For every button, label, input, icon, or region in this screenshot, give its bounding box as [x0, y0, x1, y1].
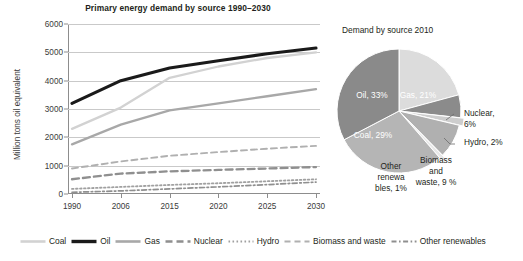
plot-area: 0100020003000400050006000 19902006201520… — [68, 24, 320, 194]
legend-item-coal[interactable]: Coal — [20, 236, 66, 246]
line-swatch-dotted — [228, 237, 254, 246]
pie-label-hydro: Hydro, 2% — [464, 137, 503, 147]
pie-chart-title: Demand by source 2010 — [342, 25, 433, 35]
y-axis-label: Million tons oil equivalent — [13, 35, 22, 195]
y-tick-label: 0 — [58, 190, 63, 199]
x-tick-mark — [170, 194, 171, 198]
y-tick-label: 4000 — [45, 76, 63, 85]
x-tick-mark — [267, 194, 268, 198]
series-lines — [68, 24, 320, 194]
x-tick-mark — [121, 194, 122, 198]
series-line-biomass-and-waste — [72, 146, 316, 169]
x-tick-label: 2025 — [258, 202, 276, 211]
legend-label: Gas — [144, 236, 159, 246]
y-tick-label: 2000 — [45, 133, 63, 142]
legend-label: Nuclear — [194, 236, 223, 246]
legend-item-nuclear[interactable]: Nuclear — [165, 236, 223, 246]
pie-label-oil: Oil, 33% — [356, 90, 388, 100]
legend-item-hydro[interactable]: Hydro — [228, 236, 279, 246]
legend-item-oil[interactable]: Oil — [71, 236, 110, 246]
line-swatch-dashed — [165, 237, 191, 246]
y-tick-label: 1000 — [45, 161, 63, 170]
legend-item-gas[interactable]: Gas — [115, 236, 159, 246]
y-tick-label: 6000 — [45, 20, 63, 29]
line-chart: Primary energy demand by source 1990–203… — [0, 0, 336, 224]
x-tick-mark — [72, 194, 73, 198]
series-line-nuclear — [72, 167, 316, 179]
chart-figure: Primary energy demand by source 1990–203… — [0, 0, 523, 261]
legend-label: Coal — [49, 236, 66, 246]
x-tick-label: 2020 — [209, 202, 227, 211]
x-tick-label: 2015 — [160, 202, 178, 211]
pie-chart: Demand by source 2010 Oil, 33%Gas, 21%Co… — [336, 0, 523, 261]
pie-label-coal: Coal, 29% — [354, 130, 393, 140]
line-swatch-solid-black — [71, 237, 97, 246]
series-line-hydro — [72, 179, 316, 189]
pie-svg: Oil, 33%Gas, 21%Coal, 29%Nuclear,6%Hydro… — [336, 38, 523, 188]
pie-label-gas: Gas, 21% — [400, 90, 437, 100]
x-tick-label: 2006 — [112, 202, 130, 211]
line-chart-title: Primary energy demand by source 1990–203… — [28, 3, 328, 13]
legend-label: Hydro — [257, 236, 279, 246]
x-tick-mark — [316, 194, 317, 198]
pie-label-biomass: Biomassandwaste, 9 % — [415, 155, 457, 187]
series-line-gas — [72, 89, 316, 144]
x-tick-label: 1990 — [63, 202, 81, 211]
pie-label-nuclear: Nuclear,6% — [464, 108, 494, 129]
legend-label: Oil — [100, 236, 110, 246]
x-tick-mark — [218, 194, 219, 198]
line-swatch-dashed-long — [284, 237, 310, 246]
line-swatch-solid-gray — [115, 237, 141, 246]
y-tick-label: 3000 — [45, 105, 63, 114]
line-swatch-solid-light — [20, 237, 46, 246]
x-tick-label: 2030 — [307, 202, 325, 211]
y-tick-label: 5000 — [45, 48, 63, 57]
